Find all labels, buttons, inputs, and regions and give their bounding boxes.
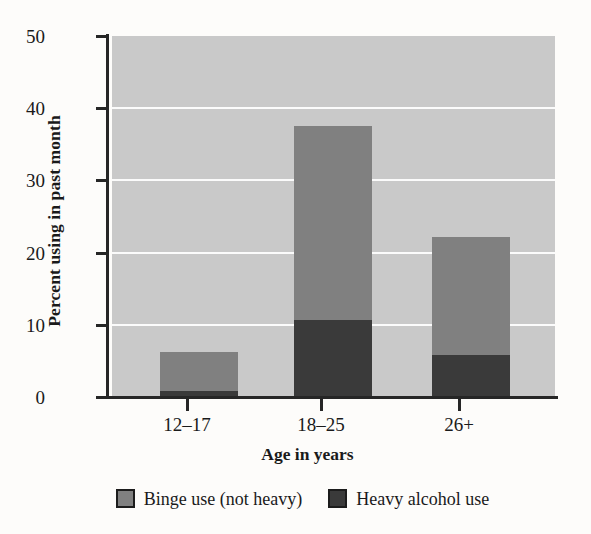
x-tick-label-26-plus: 26+ <box>399 414 519 435</box>
legend-label-heavy: Heavy alcohol use <box>356 490 489 508</box>
x-axis-title: Age in years <box>0 444 591 465</box>
gridline-40 <box>112 107 555 109</box>
x-tick-mark-18-25 <box>320 399 323 411</box>
legend-swatch-binge-icon <box>116 489 135 508</box>
legend-swatch-heavy-icon <box>328 489 347 508</box>
x-tick-mark-12-17 <box>186 399 189 411</box>
y-axis-line <box>106 34 109 399</box>
legend-item-binge: Binge use (not heavy) <box>116 489 302 508</box>
bar-18-25-heavy-segment <box>294 320 372 397</box>
y-tick-label-50: 50 <box>0 27 45 46</box>
x-tick-label-12-17: 12–17 <box>127 414 247 435</box>
x-axis-line <box>106 396 558 399</box>
y-tick-label-0: 0 <box>0 388 45 407</box>
bar-26-plus-heavy-segment <box>432 355 510 397</box>
legend-item-heavy: Heavy alcohol use <box>328 489 489 508</box>
legend-label-binge: Binge use (not heavy) <box>144 490 302 508</box>
bar-12-17 <box>160 352 238 397</box>
plot-area <box>112 36 555 397</box>
bar-12-17-binge-segment <box>160 352 238 390</box>
y-axis-title: Percent using in past month <box>44 71 70 371</box>
y-tick-label-10: 10 <box>0 316 45 335</box>
bar-18-25 <box>294 126 372 397</box>
chart-legend: Binge use (not heavy) Heavy alcohol use <box>0 489 591 508</box>
x-tick-mark-26-plus <box>458 399 461 411</box>
y-tick-label-40: 40 <box>0 99 45 118</box>
y-tick-label-20: 20 <box>0 244 45 263</box>
stacked-bar-chart: Percent using in past month 50 40 30 20 … <box>0 0 591 534</box>
bar-26-plus-binge-segment <box>432 237 510 355</box>
x-tick-label-18-25: 18–25 <box>261 414 381 435</box>
bar-18-25-binge-segment <box>294 126 372 319</box>
bar-26-plus <box>432 237 510 397</box>
y-tick-label-30: 30 <box>0 171 45 190</box>
